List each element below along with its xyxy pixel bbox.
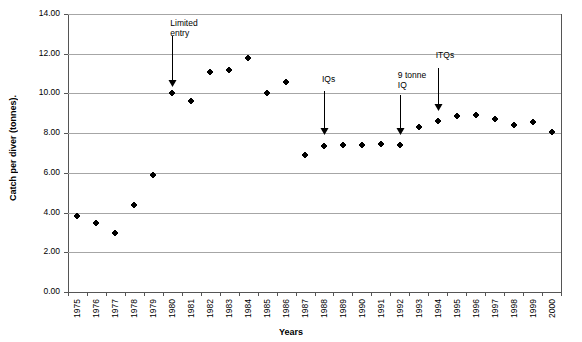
x-tick-mark bbox=[447, 292, 448, 296]
gridline bbox=[68, 133, 561, 134]
x-tick-label: 1979 bbox=[149, 299, 158, 318]
data-point bbox=[113, 231, 117, 235]
annotation-arrow-line bbox=[324, 91, 325, 129]
x-tick-mark bbox=[201, 292, 202, 296]
annotation-label-iqs: IQs bbox=[322, 74, 335, 84]
chart-container: Catch per diver (tonnes). 14.0012.0010.0… bbox=[0, 0, 582, 342]
x-tick-mark bbox=[504, 292, 505, 296]
x-tick-mark bbox=[333, 292, 334, 296]
annotation-arrow-line bbox=[172, 36, 173, 82]
x-tick-mark bbox=[239, 292, 240, 296]
gridline bbox=[68, 54, 561, 55]
x-tick-mark bbox=[296, 292, 297, 296]
data-point bbox=[170, 91, 174, 95]
data-point bbox=[531, 120, 535, 124]
x-tick-mark bbox=[466, 292, 467, 296]
gridline bbox=[68, 14, 561, 15]
y-tick-label: 2.00 bbox=[16, 247, 60, 256]
x-tick-mark bbox=[68, 292, 69, 296]
x-tick-label: 1996 bbox=[472, 299, 481, 318]
x-tick-label: 2000 bbox=[548, 299, 557, 318]
data-point bbox=[189, 99, 193, 103]
x-tick-label: 1989 bbox=[339, 299, 348, 318]
annotation-label-nine-tonne-iq: 9 tonne IQ bbox=[398, 70, 426, 90]
y-tick-mark bbox=[64, 54, 68, 55]
x-tick-label: 1994 bbox=[434, 299, 443, 318]
data-point bbox=[246, 56, 250, 60]
data-point bbox=[550, 130, 554, 134]
x-tick-mark bbox=[125, 292, 126, 296]
x-tick-mark bbox=[409, 292, 410, 296]
data-point bbox=[227, 68, 231, 72]
x-tick-mark bbox=[523, 292, 524, 296]
y-tick-label: 0.00 bbox=[16, 287, 60, 296]
x-tick-mark bbox=[315, 292, 316, 296]
x-tick-label: 1993 bbox=[415, 299, 424, 318]
data-point bbox=[75, 214, 79, 218]
data-point bbox=[322, 144, 326, 148]
x-tick-label: 1976 bbox=[92, 299, 101, 318]
x-tick-mark bbox=[561, 292, 562, 296]
data-point bbox=[265, 91, 269, 95]
y-tick-mark bbox=[64, 133, 68, 134]
data-point bbox=[493, 117, 497, 121]
annotation-arrow-head bbox=[396, 128, 404, 135]
x-tick-mark bbox=[163, 292, 164, 296]
data-point bbox=[94, 221, 98, 225]
x-tick-label: 1977 bbox=[111, 299, 120, 318]
data-point bbox=[436, 119, 440, 123]
x-tick-mark bbox=[220, 292, 221, 296]
x-tick-label: 1992 bbox=[396, 299, 405, 318]
annotation-arrow-line bbox=[438, 68, 439, 106]
x-tick-mark bbox=[277, 292, 278, 296]
x-tick-mark bbox=[258, 292, 259, 296]
data-point bbox=[208, 70, 212, 74]
data-point bbox=[417, 125, 421, 129]
gridline bbox=[68, 173, 561, 174]
y-tick-mark bbox=[64, 213, 68, 214]
data-point bbox=[455, 114, 459, 118]
x-tick-mark bbox=[106, 292, 107, 296]
x-tick-label: 1980 bbox=[168, 299, 177, 318]
x-tick-label: 1995 bbox=[453, 299, 462, 318]
x-tick-mark bbox=[542, 292, 543, 296]
y-tick-mark bbox=[64, 173, 68, 174]
y-tick-mark bbox=[64, 93, 68, 94]
x-tick-mark bbox=[352, 292, 353, 296]
plot-area bbox=[68, 14, 561, 292]
data-point bbox=[341, 143, 345, 147]
x-tick-mark bbox=[144, 292, 145, 296]
y-tick-label: 6.00 bbox=[16, 168, 60, 177]
x-tick-label: 1988 bbox=[320, 299, 329, 318]
x-tick-label: 1978 bbox=[130, 299, 139, 318]
data-point bbox=[284, 80, 288, 84]
y-axis-title: Catch per diver (tonnes). bbox=[8, 95, 18, 201]
y-tick-label: 14.00 bbox=[16, 9, 60, 18]
x-tick-label: 1981 bbox=[187, 299, 196, 318]
annotation-arrow-line bbox=[400, 95, 401, 129]
x-tick-mark bbox=[371, 292, 372, 296]
annotation-arrow-head bbox=[434, 104, 442, 111]
x-tick-label: 1997 bbox=[491, 299, 500, 318]
annotation-arrow-head bbox=[169, 80, 177, 87]
x-tick-label: 1975 bbox=[73, 299, 82, 318]
data-point bbox=[398, 143, 402, 147]
y-tick-label: 12.00 bbox=[16, 49, 60, 58]
data-point bbox=[303, 153, 307, 157]
annotation-label-itqs: ITQs bbox=[436, 50, 454, 60]
y-tick-label: 10.00 bbox=[16, 88, 60, 97]
gridline bbox=[68, 93, 561, 94]
x-tick-label: 1987 bbox=[301, 299, 310, 318]
x-tick-label: 1982 bbox=[206, 299, 215, 318]
x-tick-mark bbox=[87, 292, 88, 296]
x-tick-label: 1998 bbox=[510, 299, 519, 318]
x-tick-mark bbox=[390, 292, 391, 296]
gridline bbox=[68, 213, 561, 214]
x-tick-label: 1999 bbox=[529, 299, 538, 318]
y-tick-label: 8.00 bbox=[16, 128, 60, 137]
annotation-arrow-head bbox=[320, 128, 328, 135]
plot-right-border bbox=[561, 14, 562, 292]
x-tick-label: 1985 bbox=[263, 299, 272, 318]
x-tick-label: 1986 bbox=[282, 299, 291, 318]
annotation-label-limited-entry: Limited entry bbox=[170, 18, 197, 38]
